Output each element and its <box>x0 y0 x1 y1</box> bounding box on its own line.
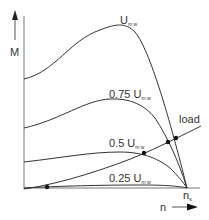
curve-u100 <box>24 25 187 188</box>
label-u75: 0.75 Um w <box>109 88 151 101</box>
label-u25: 0.25 Um w <box>109 172 151 185</box>
x-axis-label: n <box>160 201 166 213</box>
y-axis-label: M <box>10 46 19 58</box>
label-ns: ns <box>183 189 192 202</box>
n-axis-arrow <box>172 204 198 211</box>
operating-point <box>174 136 178 140</box>
operating-point <box>142 151 146 155</box>
label-u50: 0.5 Um w <box>109 137 145 150</box>
m-axis-arrow <box>12 10 18 40</box>
curve-u50 <box>24 152 187 188</box>
operating-point <box>166 140 170 144</box>
label-u100: Um w <box>120 14 138 27</box>
label-load: load <box>179 113 200 125</box>
operating-point <box>45 185 49 189</box>
curve-u75 <box>24 99 187 188</box>
torque-speed-diagram: M Um w 0.75 Um w 0.5 Um w 0.25 Um w load… <box>0 0 209 220</box>
